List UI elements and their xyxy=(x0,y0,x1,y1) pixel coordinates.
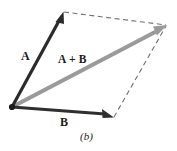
origin-point-dot xyxy=(9,104,15,110)
vector-a-label: A xyxy=(21,50,30,62)
vector-b-label: B xyxy=(60,116,68,128)
vector-addition-figure: A B A + B (b) xyxy=(0,0,177,151)
resultant-vector-label: A + B xyxy=(58,54,87,66)
vector-diagram-canvas xyxy=(0,0,177,151)
figure-caption: (b) xyxy=(80,131,93,142)
dashed-line-top xyxy=(64,12,166,25)
